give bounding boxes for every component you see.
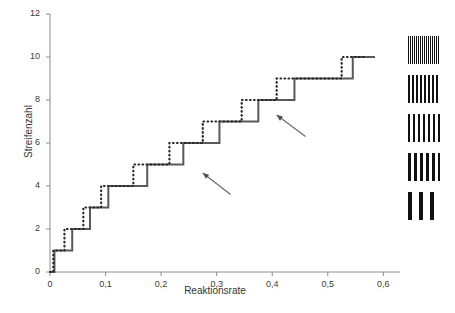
y-tick-label: 12: [14, 8, 40, 18]
x-tick-label: 0,6: [366, 279, 400, 289]
stripe-swatch-medium: [408, 114, 440, 142]
x-tick-label: 0: [33, 279, 67, 289]
y-tick-label: 2: [14, 223, 40, 233]
y-tick-label: 4: [14, 180, 40, 190]
data-series-group: [50, 57, 375, 272]
legend-swatch-list: [408, 36, 446, 231]
stripe-swatch-coarsest: [408, 192, 440, 220]
plot-area: [0, 0, 455, 313]
stripe-swatch-finest: [408, 36, 440, 64]
y-tick-label: 0: [14, 266, 40, 276]
dotted-step-series: [50, 57, 367, 272]
x-tick-label: 0,5: [311, 279, 345, 289]
x-axis-ticks: [50, 272, 383, 276]
y-tick-label: 10: [14, 51, 40, 61]
x-tick-label: 0,1: [89, 279, 123, 289]
x-axis-title: Reaktionsrate: [135, 285, 295, 296]
chart-figure: 024681012 00,10,20,30,40,50,6 Streifenza…: [0, 0, 455, 313]
y-axis-title: Streifenzahl: [23, 82, 34, 182]
solid-step-series: [50, 57, 375, 272]
stripe-swatch-coarse: [408, 153, 440, 181]
axis-lines: [50, 14, 400, 272]
y-axis-ticks: [46, 14, 50, 272]
stripe-swatch-fine: [408, 75, 440, 103]
annotation-arrows: [203, 115, 306, 195]
